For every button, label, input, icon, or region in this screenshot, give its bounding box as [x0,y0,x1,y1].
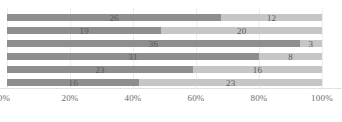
bar-segment-5-2[interactable]: 16 [193,66,322,73]
bar-label-6-1: 16 [68,78,77,87]
bar-row-6[interactable]: 16 23 [7,79,322,86]
bar-label-5-1: 23 [95,65,104,74]
x-tick-60: 60% [187,94,204,103]
bar-row-5[interactable]: 23 16 [7,66,322,73]
x-tick-0: 0% [0,94,10,103]
bar-segment-2-2[interactable]: 20 [161,27,322,34]
stacked-bar-chart: 26 12 19 20 36 3 31 [0,0,342,122]
bar-segment-5-1[interactable]: 23 [7,66,193,73]
bar-segment-2-1[interactable]: 19 [7,27,161,34]
x-tick-80: 80% [250,94,267,103]
bar-label-5-2: 16 [253,65,262,74]
gridline-100 [322,8,323,88]
bar-row-4[interactable]: 31 8 [7,53,322,60]
bar-row-3[interactable]: 36 3 [7,40,322,47]
bar-label-1-2: 12 [267,13,276,22]
bar-segment-6-1[interactable]: 16 [7,79,139,86]
bar-segment-3-2[interactable]: 3 [300,40,322,47]
bar-label-4-2: 8 [288,52,293,61]
bar-segment-6-2[interactable]: 23 [139,79,322,86]
bar-segment-4-1[interactable]: 31 [7,53,259,60]
plot-area: 26 12 19 20 36 3 31 [7,8,322,88]
bar-segment-1-1[interactable]: 26 [7,14,221,21]
bar-label-1-1: 26 [109,13,118,22]
bar-label-4-1: 31 [128,52,137,61]
bar-label-3-1: 36 [149,39,158,48]
bar-segment-3-1[interactable]: 36 [7,40,300,47]
x-axis-line [0,88,342,89]
bar-segment-1-2[interactable]: 12 [221,14,322,21]
x-tick-20: 20% [61,94,78,103]
bar-segment-4-2[interactable]: 8 [259,53,322,60]
bar-label-2-2: 20 [237,26,246,35]
bar-label-2-1: 19 [79,26,88,35]
x-axis-tick-labels: 0% 20% 40% 60% 80% 100% [0,94,342,108]
x-tick-40: 40% [124,94,141,103]
bar-row-1[interactable]: 26 12 [7,14,322,21]
bar-label-6-2: 23 [226,78,235,87]
x-tick-100: 100% [311,94,333,103]
bar-label-3-2: 3 [309,39,314,48]
bar-row-2[interactable]: 19 20 [7,27,322,34]
